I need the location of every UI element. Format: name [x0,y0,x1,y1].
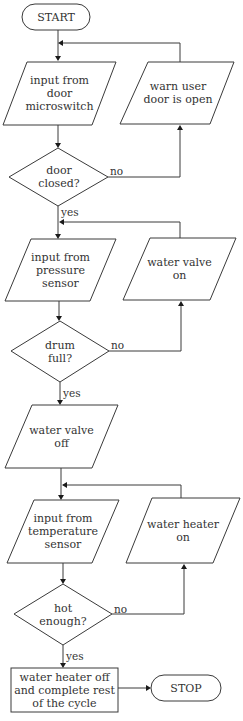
arrowhead-icon [59,219,64,225]
warn-door-label: warn user door is open [134,62,222,124]
arrowhead-icon [55,56,61,61]
loop-connector [61,222,180,238]
edge-label-hot-yes: yes [66,650,84,662]
arrowhead-icon [62,482,67,488]
drum-full-label: drum full? [21,321,99,382]
arrowhead-icon [178,301,184,306]
loop-connector [60,43,180,62]
input-pressure-label: input from pressure sensor [18,239,103,301]
door-closed-label: door closed? [20,148,98,206]
loop-connector [63,485,181,498]
arrowhead-icon [181,564,187,569]
heater-off-label: water heater off and complete rest of th… [11,668,118,712]
stop-label: STOP [151,675,221,701]
edge-label-door-yes: yes [61,206,79,218]
heater-on-label: water heater on [139,498,227,563]
edge-label-hot-no: no [114,603,127,615]
input-temp-label: input from temperature sensor [20,500,106,563]
arrowhead-icon [177,125,183,130]
input-door-label: input from door microswitch [15,62,104,125]
edge-label-door-no: no [110,165,123,177]
hot-enough-label: hot enough? [24,584,102,645]
edge-label-drum-no: no [111,339,124,351]
valve-off-label: water valve off [18,405,105,468]
valve-on-label: water valve on [136,238,223,300]
edge-label-drum-yes: yes [63,387,81,399]
arrowhead-icon [58,40,63,46]
start-label: START [22,4,90,30]
